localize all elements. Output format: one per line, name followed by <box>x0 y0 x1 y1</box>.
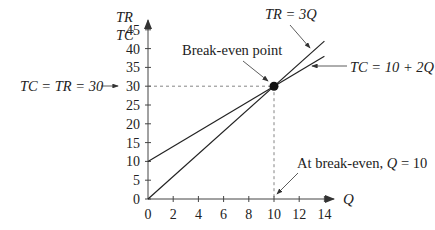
svg-text:25: 25 <box>126 98 140 113</box>
break-even-chart: 0 5 10 15 20 25 30 35 40 45 0 2 4 6 8 10… <box>0 0 435 230</box>
svg-text:10: 10 <box>126 154 140 169</box>
svg-text:0: 0 <box>133 192 140 207</box>
svg-text:35: 35 <box>126 60 140 75</box>
break-even-label: Break-even point <box>182 42 282 58</box>
svg-text:15: 15 <box>126 136 140 151</box>
svg-text:30: 30 <box>126 79 140 94</box>
svg-text:14: 14 <box>317 207 331 222</box>
break-even-callout-arrow <box>243 61 268 81</box>
svg-text:6: 6 <box>220 207 227 222</box>
svg-text:20: 20 <box>126 117 140 132</box>
x-callout-arrow <box>277 173 298 194</box>
y-axis-label-tr: TR <box>116 9 133 25</box>
svg-text:4: 4 <box>195 207 202 222</box>
svg-text:0: 0 <box>145 207 152 222</box>
svg-text:2: 2 <box>170 207 177 222</box>
svg-text:10: 10 <box>267 207 281 222</box>
x-callout-label: At break-even, Q = 10 <box>297 155 427 171</box>
svg-text:40: 40 <box>126 42 140 57</box>
y-axis-label-tc: TC <box>116 27 134 43</box>
y-tick-labels: 0 5 10 15 20 25 30 35 40 45 <box>126 23 140 207</box>
svg-text:12: 12 <box>292 207 306 222</box>
svg-text:8: 8 <box>245 207 252 222</box>
tc-equation-label: TC = 10 + 2Q <box>350 59 435 75</box>
tc-line <box>148 56 324 161</box>
tr-line <box>148 41 324 199</box>
y-callout-label: TC = TR = 30 <box>20 78 104 94</box>
tr-callout-arrow <box>290 25 310 48</box>
break-even-point-marker <box>270 82 279 91</box>
x-axis-label: Q <box>343 191 354 207</box>
svg-text:5: 5 <box>133 173 140 188</box>
x-tick-labels: 0 2 4 6 8 10 12 14 <box>145 207 332 222</box>
tr-equation-label: TR = 3Q <box>265 6 317 22</box>
